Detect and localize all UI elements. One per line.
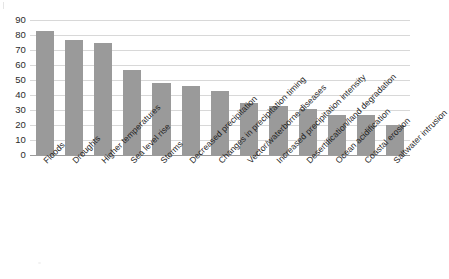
y-tick-label: 50 bbox=[15, 75, 26, 85]
y-tick-label: 0 bbox=[21, 150, 26, 160]
y-tick-label: 20 bbox=[15, 120, 26, 130]
bar[interactable] bbox=[36, 31, 54, 156]
y-tick-label: 80 bbox=[15, 30, 26, 40]
bar[interactable] bbox=[65, 40, 83, 156]
y-tick-label: 10 bbox=[15, 135, 26, 145]
y-tick-label: 30 bbox=[15, 105, 26, 115]
y-axis: 9080706050403020100 bbox=[0, 0, 30, 279]
scan-artifact-bottom-left bbox=[38, 262, 41, 264]
y-tick-label: 60 bbox=[15, 60, 26, 70]
y-tick-label: 70 bbox=[15, 45, 26, 55]
y-tick-label: 90 bbox=[15, 15, 26, 25]
y-tick-label: 40 bbox=[15, 90, 26, 100]
